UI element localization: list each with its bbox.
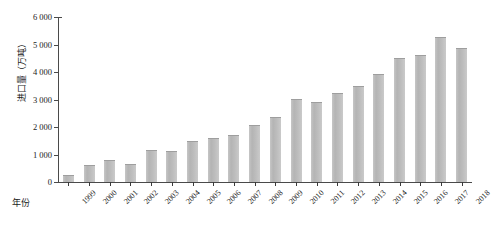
bar	[415, 55, 426, 182]
y-tick	[54, 72, 58, 73]
x-tick-label: 2011	[329, 189, 346, 206]
x-tick	[358, 182, 359, 186]
bar	[249, 125, 260, 182]
x-tick	[130, 182, 131, 186]
bar	[146, 150, 157, 182]
x-tick-label: 2017	[454, 189, 471, 206]
x-tick-label: 2014	[392, 189, 409, 206]
x-axis-line	[58, 182, 472, 183]
bar	[270, 117, 281, 182]
x-tick-label: 2018	[474, 189, 491, 206]
bar	[104, 160, 115, 182]
x-tick	[400, 182, 401, 186]
x-tick-label: 2005	[205, 189, 222, 206]
y-tick	[54, 17, 58, 18]
bar	[166, 151, 177, 182]
y-tick	[54, 155, 58, 156]
x-tick-label: 2000	[102, 189, 119, 206]
x-tick	[110, 182, 111, 186]
x-axis-title: 年份	[12, 196, 30, 209]
bar	[332, 93, 343, 182]
y-tick-label: 4 000	[33, 68, 52, 77]
x-tick	[462, 182, 463, 186]
y-tick-label: 6 000	[33, 13, 52, 22]
x-tick-label: 2008	[267, 189, 284, 206]
x-tick	[441, 182, 442, 186]
x-tick-label: 2009	[288, 189, 305, 206]
bar	[373, 74, 384, 182]
x-tick-label: 2007	[247, 189, 264, 206]
bar	[208, 138, 219, 182]
bar	[456, 48, 467, 182]
y-tick-label: 5 000	[33, 40, 52, 49]
bar	[187, 141, 198, 182]
x-tick-label: 2010	[309, 189, 326, 206]
x-tick-label: 2003	[164, 189, 181, 206]
x-tick-label: 2015	[412, 189, 429, 206]
x-tick	[296, 182, 297, 186]
bar	[291, 99, 302, 183]
bar	[394, 58, 405, 182]
x-tick	[255, 182, 256, 186]
x-tick	[151, 182, 152, 186]
y-tick-label: 0	[48, 178, 52, 187]
y-tick-label: 1 000	[33, 150, 52, 159]
bar	[435, 37, 446, 182]
x-tick	[275, 182, 276, 186]
x-tick-label: 2004	[185, 189, 202, 206]
y-tick	[54, 100, 58, 101]
x-tick	[193, 182, 194, 186]
x-tick-label: 2002	[143, 189, 160, 206]
y-tick	[54, 182, 58, 183]
x-tick	[317, 182, 318, 186]
x-tick	[172, 182, 173, 186]
x-tick-label: 2001	[122, 189, 139, 206]
bar	[353, 86, 364, 182]
x-tick-label: 2013	[371, 189, 388, 206]
y-axis-top-cap	[58, 17, 62, 18]
x-tick	[68, 182, 69, 186]
y-tick-label: 2 000	[33, 123, 52, 132]
bar	[84, 165, 95, 182]
x-tick-label: 2006	[226, 189, 243, 206]
bar	[63, 175, 74, 183]
x-tick-label: 2016	[433, 189, 450, 206]
bar	[311, 102, 322, 182]
x-tick	[337, 182, 338, 186]
y-tick	[54, 45, 58, 46]
x-tick	[379, 182, 380, 186]
bar	[125, 164, 136, 182]
x-tick	[420, 182, 421, 186]
y-axis-line	[58, 17, 59, 182]
bar	[228, 135, 239, 182]
x-tick	[213, 182, 214, 186]
y-axis-title: 进口量（万吨）	[15, 6, 28, 136]
plot-area: 01 0002 0003 0004 0005 0006 000 19992000…	[58, 17, 472, 182]
x-tick-label: 2012	[350, 189, 367, 206]
x-tick	[89, 182, 90, 186]
x-tick	[234, 182, 235, 186]
y-tick	[54, 127, 58, 128]
y-tick-label: 3 000	[33, 95, 52, 104]
x-tick-label: 1999	[81, 189, 98, 206]
